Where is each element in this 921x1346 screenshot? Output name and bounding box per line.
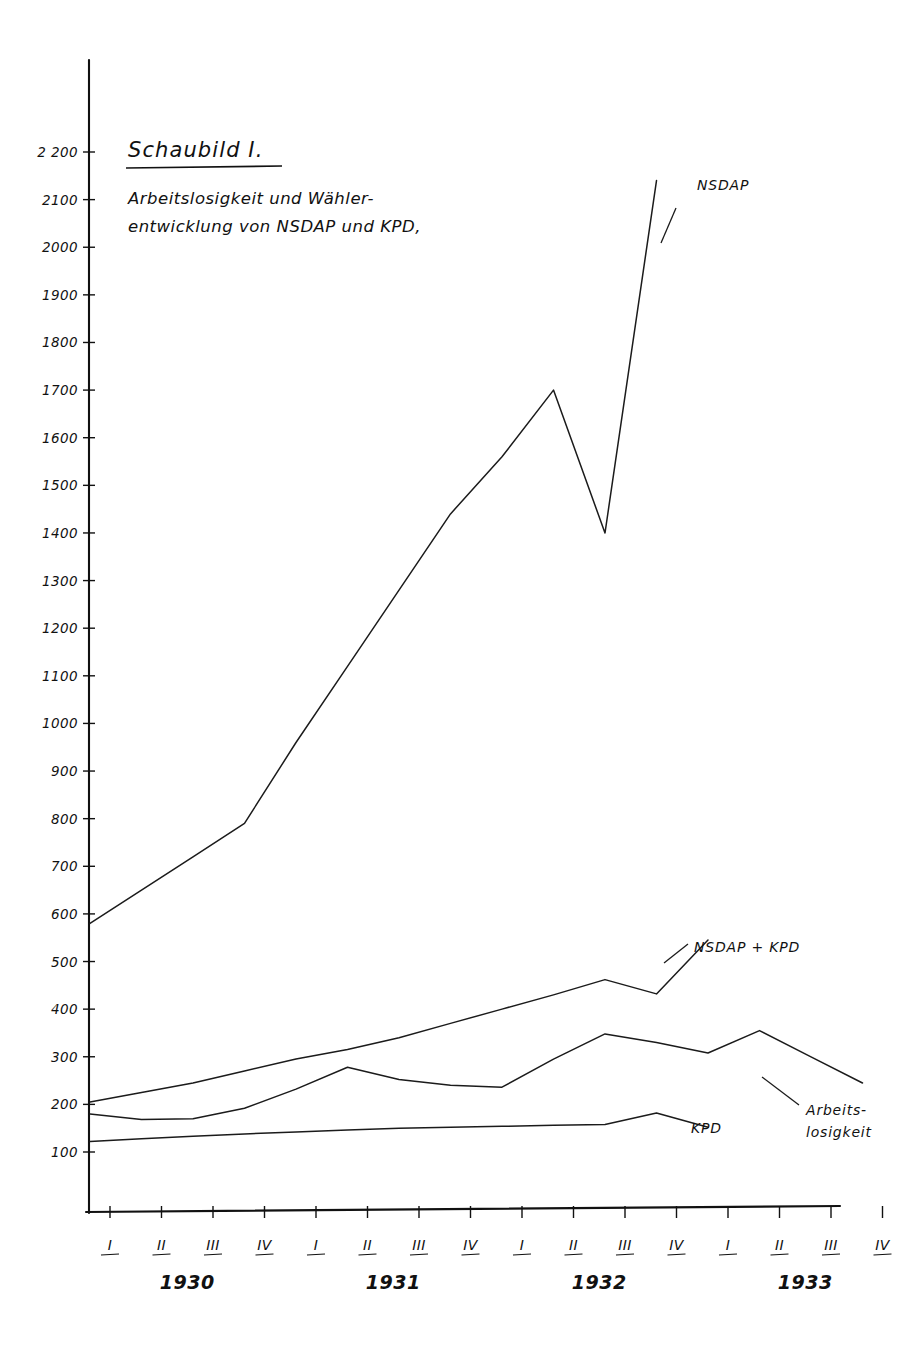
- y-tick-label: 700: [51, 858, 78, 874]
- x-year-label: 1932: [572, 1271, 627, 1293]
- x-tick-underline: [462, 1254, 480, 1255]
- svg-text:IV: IV: [463, 1237, 478, 1253]
- y-tick-label: 1000: [42, 715, 78, 731]
- svg-text:II: II: [363, 1237, 372, 1253]
- y-tick-label: 500: [51, 954, 78, 970]
- x-axis-year-labels: 1930193119321933: [160, 1271, 833, 1293]
- svg-text:III: III: [824, 1237, 837, 1253]
- svg-text:I: I: [314, 1237, 318, 1253]
- x-tick-label: III: [204, 1237, 222, 1255]
- x-tick-label: IV: [668, 1237, 686, 1255]
- series-label-arbeitslosigkeit-line2: losigkeit: [806, 1124, 872, 1140]
- x-tick-underline: [822, 1254, 840, 1255]
- x-tick-label: I: [513, 1237, 531, 1255]
- x-tick-label: II: [359, 1237, 377, 1255]
- x-tick-underline: [874, 1254, 892, 1255]
- x-tick-label: I: [307, 1237, 325, 1255]
- series-line-nsdap: [90, 181, 657, 924]
- figure-subtitle-line1: Arbeitslosigkeit und Wähler-: [127, 189, 374, 208]
- svg-text:IV: IV: [875, 1237, 890, 1253]
- x-axis: [86, 1206, 840, 1212]
- figure-title: Schaubild I.: [128, 138, 263, 162]
- chart-figure: 1002003004005006007008009001000110012001…: [0, 0, 921, 1346]
- x-tick-underline: [513, 1254, 531, 1255]
- x-year-label: 1933: [778, 1271, 833, 1293]
- x-tick-label: IV: [256, 1237, 274, 1255]
- y-tick-label: 1600: [42, 430, 78, 446]
- x-tick-label: I: [101, 1237, 119, 1255]
- x-year-label: 1930: [160, 1271, 215, 1293]
- svg-text:IV: IV: [257, 1237, 272, 1253]
- x-tick-label: II: [565, 1237, 583, 1255]
- y-tick-label: 900: [51, 763, 78, 779]
- y-tick-label: 1400: [42, 525, 78, 541]
- y-tick-label: 1300: [42, 573, 78, 589]
- x-tick-underline: [719, 1254, 737, 1255]
- x-tick-label: IV: [462, 1237, 480, 1255]
- y-tick-label: 100: [51, 1144, 78, 1160]
- x-tick-underline: [101, 1254, 119, 1255]
- y-tick-label: 1800: [42, 334, 78, 350]
- leader-arbeitslosigkeit: [762, 1077, 799, 1105]
- x-tick-label: II: [771, 1237, 789, 1255]
- series-line-nsdap-kpd: [90, 940, 708, 1102]
- y-tick-label: 800: [51, 811, 78, 827]
- y-tick-label: 2000: [42, 239, 78, 255]
- y-tick-label: 300: [51, 1049, 78, 1065]
- y-tick-label: 1700: [42, 382, 78, 398]
- figure-subtitle-line2: entwicklung von NSDAP und KPD,: [128, 217, 421, 236]
- y-tick-label: 1200: [42, 620, 78, 636]
- series-label-kpd: KPD: [691, 1120, 722, 1136]
- x-tick-label: II: [153, 1237, 171, 1255]
- series-line-kpd: [90, 1113, 708, 1142]
- x-tick-label: III: [410, 1237, 428, 1255]
- y-tick-label: 1100: [42, 668, 78, 684]
- y-tick-label: 600: [51, 906, 78, 922]
- x-axis-tick-labels: IIIIIIIVIIIIIIIVIIIIIIIVIIIIIIIV: [101, 1237, 892, 1255]
- y-tick-label: 1500: [42, 477, 78, 493]
- svg-text:I: I: [726, 1237, 730, 1253]
- svg-text:II: II: [775, 1237, 784, 1253]
- x-tick-underline: [410, 1254, 428, 1255]
- x-tick-underline: [668, 1254, 686, 1255]
- x-year-label: 1931: [366, 1271, 421, 1293]
- x-tick-underline: [307, 1254, 325, 1255]
- x-tick-underline: [359, 1254, 377, 1255]
- svg-text:I: I: [520, 1237, 524, 1253]
- svg-text:I: I: [108, 1237, 112, 1253]
- series-label-arbeitslosigkeit-line1: Arbeits-: [805, 1102, 867, 1118]
- y-tick-label: 2 200: [37, 144, 78, 160]
- x-tick-underline: [565, 1254, 583, 1255]
- leader-nsdap: [661, 208, 676, 243]
- y-tick-label: 1900: [42, 287, 78, 303]
- svg-text:III: III: [412, 1237, 425, 1253]
- svg-text:II: II: [157, 1237, 166, 1253]
- svg-text:II: II: [569, 1237, 578, 1253]
- y-tick-label: 200: [51, 1096, 78, 1112]
- x-tick-underline: [616, 1254, 634, 1255]
- series-label-nsdap-kpd: NSDAP + KPD: [694, 939, 800, 955]
- x-tick-label: III: [822, 1237, 840, 1255]
- hand-drawn-line-chart: 1002003004005006007008009001000110012001…: [0, 0, 921, 1346]
- x-tick-underline: [204, 1254, 222, 1255]
- x-tick-underline: [153, 1254, 171, 1255]
- y-axis-tick-labels: 1002003004005006007008009001000110012001…: [37, 144, 78, 1160]
- x-tick-underline: [256, 1254, 274, 1255]
- y-tick-label: 2100: [42, 192, 78, 208]
- figure-title-underline: [126, 166, 282, 168]
- svg-text:III: III: [206, 1237, 219, 1253]
- series-line-arbeitslosigkeit: [90, 1031, 863, 1120]
- x-tick-label: IV: [874, 1237, 892, 1255]
- svg-text:III: III: [618, 1237, 631, 1253]
- x-tick-label: III: [616, 1237, 634, 1255]
- x-tick-underline: [771, 1254, 789, 1255]
- svg-text:IV: IV: [669, 1237, 684, 1253]
- y-tick-label: 400: [51, 1001, 78, 1017]
- x-tick-label: I: [719, 1237, 737, 1255]
- leader-nsdap-kpd: [664, 944, 688, 963]
- series-label-nsdap: NSDAP: [697, 177, 749, 193]
